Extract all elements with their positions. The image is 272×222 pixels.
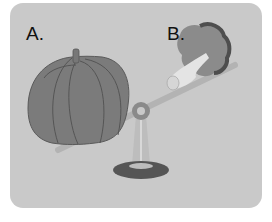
label-a: A. [26, 23, 44, 45]
label-b: B. [167, 23, 185, 45]
illustration-card: A. B. [10, 3, 262, 208]
pumpkin-icon [28, 49, 129, 145]
seesaw-scene [10, 3, 262, 208]
